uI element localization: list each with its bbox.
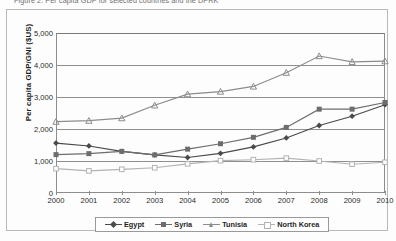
data-point [284,125,289,130]
data-point [218,141,223,146]
data-point [87,169,92,174]
legend-marker-icon [105,220,122,229]
data-point [119,149,124,154]
data-point [120,167,125,172]
x-tick-mark [122,191,123,195]
data-point [284,156,289,161]
x-tick-label: 2004 [179,196,196,205]
legend-marker-icon [258,220,275,229]
legend-item-tunisia[interactable]: Tunisia [203,220,247,229]
x-tick-label: 2003 [146,196,163,205]
data-point [218,158,223,163]
x-tick-label: 2010 [377,196,394,205]
x-tick-label: 2007 [278,196,295,205]
x-tick-label: 2001 [80,196,97,205]
data-point [317,159,322,164]
y-tick-label: 4,000 [9,61,53,70]
legend-label: North Korea [277,221,319,228]
series-line [56,102,385,154]
data-point [53,140,59,146]
x-tick-mark [385,191,386,195]
series-layer [56,33,385,193]
data-point [218,150,224,156]
data-point [152,165,157,170]
y-tick-label: 0 [9,189,53,198]
y-tick-label: 5,000 [9,29,53,38]
x-tick-mark [286,191,287,195]
x-axis-ticks: 2000200120022003200420052006200720082009… [56,196,385,210]
legend-item-north-korea[interactable]: North Korea [258,220,319,229]
x-tick-mark [221,191,222,195]
chart-figure: Figure 2. Per capita GDP for selected co… [0,0,396,241]
data-point [316,123,322,129]
series-north-korea [54,156,388,173]
data-point [350,162,355,167]
y-tick-label: 2,000 [9,125,53,134]
data-point [185,155,191,161]
legend-item-syria[interactable]: Syria [155,220,192,229]
x-tick-mark [155,191,156,195]
x-tick-label: 2000 [48,196,65,205]
legend-item-egypt[interactable]: Egypt [105,220,144,229]
legend-marker-icon [155,220,172,229]
x-tick-label: 2005 [212,196,229,205]
x-tick-mark [89,191,90,195]
data-point [86,143,92,149]
x-tick-label: 2009 [344,196,361,205]
data-point [152,152,157,157]
x-tick-mark [188,191,189,195]
y-tick-label: 3,000 [9,93,53,102]
data-point [54,152,59,157]
data-point [349,113,355,119]
data-point [86,151,91,156]
legend-label: Tunisia [222,221,247,228]
y-axis-ticks: 01,0002,0003,0004,0005,000 [7,33,53,193]
series-line [56,105,385,158]
figure-caption: Figure 2. Per capita GDP for selected co… [0,0,396,6]
x-tick-mark [253,191,254,195]
data-point [185,162,190,167]
legend-label: Syria [174,221,192,228]
data-point [317,107,322,112]
chart-legend: EgyptSyriaTunisiaNorth Korea [95,217,329,232]
y-tick-label: 1,000 [9,157,53,166]
data-point [185,147,190,152]
series-tunisia [53,53,388,124]
x-tick-mark [56,191,57,195]
data-point [251,135,256,140]
x-tick-label: 2006 [245,196,262,205]
x-tick-label: 2008 [311,196,328,205]
legend-label: Egypt [124,221,144,228]
x-tick-label: 2002 [113,196,130,205]
data-point [350,107,355,112]
data-point [251,144,257,150]
x-tick-mark [352,191,353,195]
data-point [283,135,289,141]
series-egypt [53,102,388,161]
data-point [383,100,388,105]
data-point [54,166,59,171]
figure-border: Per capita GDP/GNI ($US) 01,0002,0003,00… [6,9,388,231]
legend-marker-icon [203,220,220,229]
x-tick-mark [319,191,320,195]
data-point [383,160,388,165]
data-point [251,157,256,162]
